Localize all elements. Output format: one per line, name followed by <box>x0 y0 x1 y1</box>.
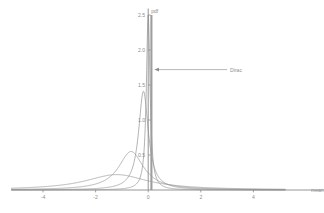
y-tick-label: 0.5 <box>138 152 145 158</box>
x-tick-label: 2 <box>199 194 202 200</box>
x-axis-label: mean <box>311 187 324 193</box>
x-tick-label: 4 <box>252 194 255 200</box>
annotation-arrow-head <box>154 68 159 72</box>
x-axis-ticks: -4-2024 <box>41 190 255 200</box>
chart-plot: -4-2024 0.51.01.52.02.5 mean pdf Dirac <box>0 0 324 213</box>
y-axis-label: pdf <box>151 8 159 14</box>
annotation-label: Dirac <box>230 67 242 73</box>
y-tick-label: 1.0 <box>138 117 145 123</box>
y-tick-label: 1.5 <box>138 82 145 88</box>
dirac-annotation: Dirac <box>154 67 242 73</box>
x-tick-label: -4 <box>41 194 46 200</box>
chart-container: -4-2024 0.51.01.52.02.5 mean pdf Dirac <box>0 0 324 213</box>
y-tick-label: 2.0 <box>138 47 145 53</box>
y-tick-label: 2.5 <box>138 12 145 18</box>
x-tick-label: -2 <box>93 194 98 200</box>
x-tick-label: 0 <box>147 194 150 200</box>
